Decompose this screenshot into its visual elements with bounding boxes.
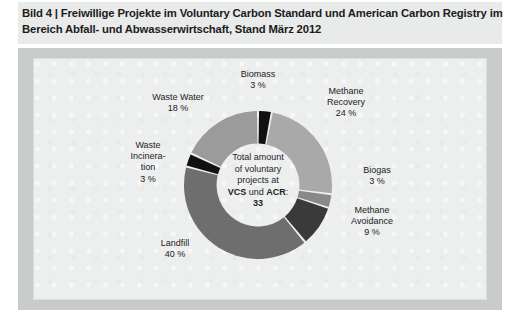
caption-line-1: Bild 4 | Freiwillige Projekte im Volunta… — [22, 6, 496, 22]
center-line-1: Total amount — [206, 152, 310, 164]
center-line-4: VCS und ACR: — [206, 187, 310, 199]
total-projects-value: 33 — [253, 198, 263, 208]
slice-label-landfill: Landfill 40 % — [130, 238, 220, 260]
slice-label-methane-recovery: Methane Recovery 24 % — [304, 86, 388, 120]
slice-label-waste-water: Waste Water 18 % — [136, 92, 220, 114]
slice-label-waste-incineration: Waste Incinera- tion 3 % — [115, 140, 181, 185]
caption-line-2: Bereich Abfall- und Abwasserwirtschaft, … — [22, 22, 496, 38]
slice-label-biogas: Biogas 3 % — [348, 165, 406, 187]
center-line-2: of voluntary — [206, 164, 310, 176]
donut-center-label: Total amount of voluntary projects at VC… — [206, 152, 310, 210]
slice-label-biomass: Biomass 3 % — [212, 69, 304, 91]
figure-caption: Bild 4 | Freiwillige Projekte im Volunta… — [22, 6, 496, 37]
vcs-acronym: VCS — [228, 187, 247, 197]
figure-container: Bild 4 | Freiwillige Projekte im Volunta… — [0, 0, 520, 330]
center-total: 33 — [206, 198, 310, 210]
center-line-3: projects at — [206, 175, 310, 187]
acr-acronym: ACR — [266, 187, 286, 197]
center-colon: : — [286, 187, 289, 197]
center-conjunction: und — [246, 187, 266, 197]
slice-label-methane-avoidance: Methane Avoidance 9 % — [330, 205, 414, 239]
